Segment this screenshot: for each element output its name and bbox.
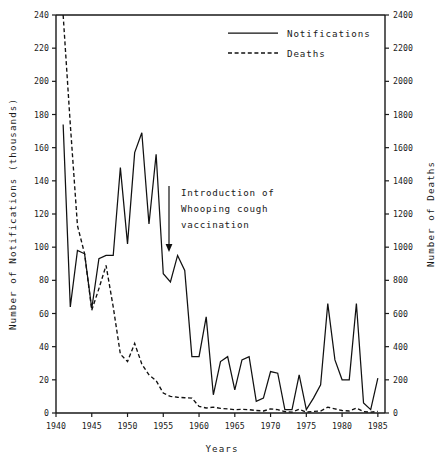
y-left-ticklabel: 160 bbox=[34, 143, 49, 153]
annotation-line: vaccination bbox=[181, 219, 250, 230]
y-left-ticklabel: 220 bbox=[34, 43, 49, 53]
y-axis-left: 020406080100120140160180200220240 bbox=[34, 10, 56, 418]
y-left-ticklabel: 240 bbox=[34, 10, 49, 20]
y-right-ticklabel: 1000 bbox=[393, 242, 413, 252]
y-right-ticklabel: 800 bbox=[393, 275, 408, 285]
y-left-ticklabel: 120 bbox=[34, 209, 49, 219]
legend-label-notifications: Notifications bbox=[287, 28, 371, 39]
y-left-ticklabel: 40 bbox=[39, 342, 49, 352]
chart-legend: NotificationsDeaths bbox=[228, 28, 371, 59]
x-axis-title: Years bbox=[205, 443, 238, 454]
y-left-ticklabel: 0 bbox=[44, 408, 49, 418]
annotation-line: Whooping cough bbox=[181, 203, 268, 214]
x-ticklabel: 1980 bbox=[332, 421, 352, 431]
x-ticklabel: 1945 bbox=[82, 421, 102, 431]
x-ticklabel: 1960 bbox=[189, 421, 209, 431]
series-notifications-line bbox=[63, 124, 378, 409]
y-left-ticklabel: 200 bbox=[34, 76, 49, 86]
y-left-ticklabel: 180 bbox=[34, 110, 49, 120]
y-left-ticklabel: 20 bbox=[39, 375, 49, 385]
x-axis: 1940194519501955196019651970197519801985 bbox=[46, 413, 388, 431]
y-right-ticklabel: 1600 bbox=[393, 143, 413, 153]
y-right-ticklabel: 600 bbox=[393, 309, 408, 319]
y-right-ticklabel: 0 bbox=[393, 408, 398, 418]
y-axis-right: 0200400600800100012001400160018002000220… bbox=[385, 10, 413, 418]
y-right-ticklabel: 2000 bbox=[393, 76, 413, 86]
annotation-line: Introduction of bbox=[181, 187, 274, 198]
axis-frame bbox=[56, 15, 385, 413]
y-right-ticklabel: 1800 bbox=[393, 110, 413, 120]
y-left-ticklabel: 80 bbox=[39, 275, 49, 285]
y-left-ticklabel: 140 bbox=[34, 176, 49, 186]
y-axis-left-title: Number of Notifications (thousands) bbox=[7, 98, 18, 330]
x-ticklabel: 1955 bbox=[153, 421, 173, 431]
y-right-ticklabel: 1400 bbox=[393, 176, 413, 186]
x-ticklabel: 1970 bbox=[261, 421, 281, 431]
down-arrow-icon bbox=[166, 244, 173, 252]
x-ticklabel: 1975 bbox=[296, 421, 316, 431]
x-ticklabel: 1965 bbox=[225, 421, 245, 431]
x-ticklabel: 1940 bbox=[46, 421, 66, 431]
y-axis-right-title: Number of Deaths bbox=[425, 161, 436, 267]
y-right-ticklabel: 1200 bbox=[393, 209, 413, 219]
y-right-ticklabel: 200 bbox=[393, 375, 408, 385]
whooping-cough-chart: 020406080100120140160180200220240 020040… bbox=[0, 0, 447, 467]
x-ticklabel: 1985 bbox=[368, 421, 388, 431]
y-right-ticklabel: 2200 bbox=[393, 43, 413, 53]
y-left-ticklabel: 100 bbox=[34, 242, 49, 252]
legend-label-deaths: Deaths bbox=[287, 48, 326, 59]
chart-figure: 020406080100120140160180200220240 020040… bbox=[0, 0, 447, 467]
x-ticklabel: 1950 bbox=[117, 421, 137, 431]
vaccination-annotation: Introduction ofWhooping coughvaccination bbox=[166, 186, 275, 252]
y-left-ticklabel: 60 bbox=[39, 309, 49, 319]
y-right-ticklabel: 400 bbox=[393, 342, 408, 352]
y-right-ticklabel: 2400 bbox=[393, 10, 413, 20]
